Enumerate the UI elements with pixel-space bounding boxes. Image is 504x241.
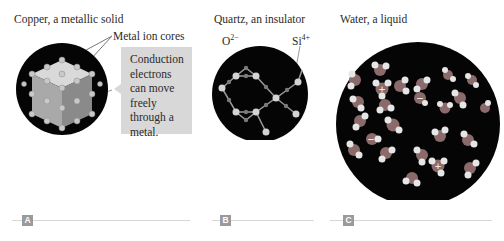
panel-a-tag: A [22, 215, 33, 226]
panel-b-tag: B [220, 215, 231, 226]
panel-a-rule [12, 220, 190, 221]
svg-text:+: + [378, 84, 386, 94]
panel-c-rule [330, 220, 492, 221]
callout-line: can move [130, 81, 186, 96]
panel-c-tag: C [343, 215, 354, 226]
panel-c-title: Water, a liquid [340, 13, 407, 25]
callout-line: freely [130, 96, 186, 111]
svg-text:−: − [416, 93, 424, 103]
svg-text:−: − [367, 134, 375, 144]
callout-line: Conduction [130, 52, 186, 67]
callout-pointer [114, 84, 121, 94]
callout-line: through a [130, 110, 186, 125]
quartz-illustration [200, 40, 320, 140]
panel-b-title: Quartz, an insulator [214, 13, 305, 25]
water-illustration: + − − + [330, 40, 500, 200]
conduction-electrons-callout: Conduction electrons can move freely thr… [121, 47, 192, 134]
callout-line: metal. [130, 125, 186, 140]
callout-line: electrons [130, 67, 186, 82]
svg-text:+: + [434, 161, 442, 171]
